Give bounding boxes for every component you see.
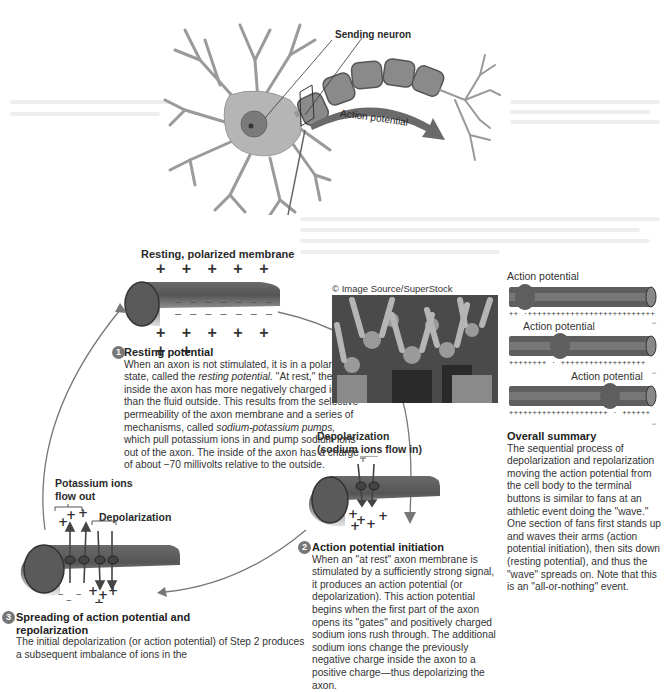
photo-credit: © Image Source/SuperStock <box>332 283 453 294</box>
axon-panel-3-icon <box>505 382 660 410</box>
step-2-body: When an "at rest" axon membrane is stimu… <box>312 554 496 691</box>
potassium-line2: flow out <box>55 490 133 503</box>
axon-panel-2-icon <box>505 332 660 360</box>
overall-summary-body: The sequential process of depolarization… <box>507 443 661 593</box>
step-2-heading: Action potential initiation <box>312 541 497 554</box>
svg-text:+: + <box>108 584 118 598</box>
panel-1-ap-label: Action potential <box>507 270 579 282</box>
svg-text:+: + <box>94 596 104 603</box>
panel-2-ap-label: Action potential <box>523 320 595 332</box>
panel-3-minus-a: – <box>652 369 657 377</box>
step-2-action-potential-initiation: 2 Action potential initiation When an "a… <box>312 541 497 692</box>
crowd-photo-icon <box>332 295 498 403</box>
svg-text:+: + <box>350 519 360 533</box>
panel-2-charges: ++++++++ · ++++++++++++++++++ <box>509 359 646 367</box>
axon-panel-1-icon <box>505 283 660 311</box>
panel-2-minus: – <box>652 319 657 327</box>
step-2-badge: 2 <box>298 541 311 554</box>
svg-text:–: – <box>76 587 82 600</box>
svg-text:–: – <box>58 587 64 600</box>
crowd-wave-photo <box>332 295 498 403</box>
potassium-flow-label: Potassium ions flow out <box>55 477 133 503</box>
depolarization-title: Depolarization (sodium ions flow in) <box>317 430 422 456</box>
depolarization-title-line1: Depolarization <box>317 430 422 443</box>
step-3-spreading: 3 Spreading of action potential and repo… <box>16 611 306 661</box>
panel-3-ap-label: Action potential <box>571 370 643 382</box>
svg-text:+: + <box>78 506 88 520</box>
panel-3-minus-b: – <box>652 420 657 428</box>
svg-text:+: + <box>378 509 388 523</box>
potassium-line1: Potassium ions <box>55 477 133 490</box>
depolarization-axon-icon: +++++ <box>300 456 440 536</box>
step-3-body: The initial depolarization (or action po… <box>16 636 304 660</box>
overall-summary-heading: Overall summary <box>507 430 667 443</box>
spreading-axon-icon: +++ ++++ ––– <box>10 503 190 603</box>
panel-1-charges: ++ ·+++++++++++++++++++++++++++ <box>509 310 655 318</box>
svg-text:+: + <box>66 508 76 522</box>
step-3-heading: Spreading of action potential and repola… <box>16 611 216 636</box>
panel-3-charges: +++++++++++++++++++++ · ++++++ <box>509 409 650 417</box>
depolarization-title-line2: (sodium ions flow in) <box>317 443 422 456</box>
svg-text:+: + <box>366 517 376 531</box>
step-3-badge: 3 <box>2 611 15 624</box>
overall-summary: Overall summary The sequential process o… <box>507 430 667 594</box>
svg-text:–: – <box>66 593 72 603</box>
